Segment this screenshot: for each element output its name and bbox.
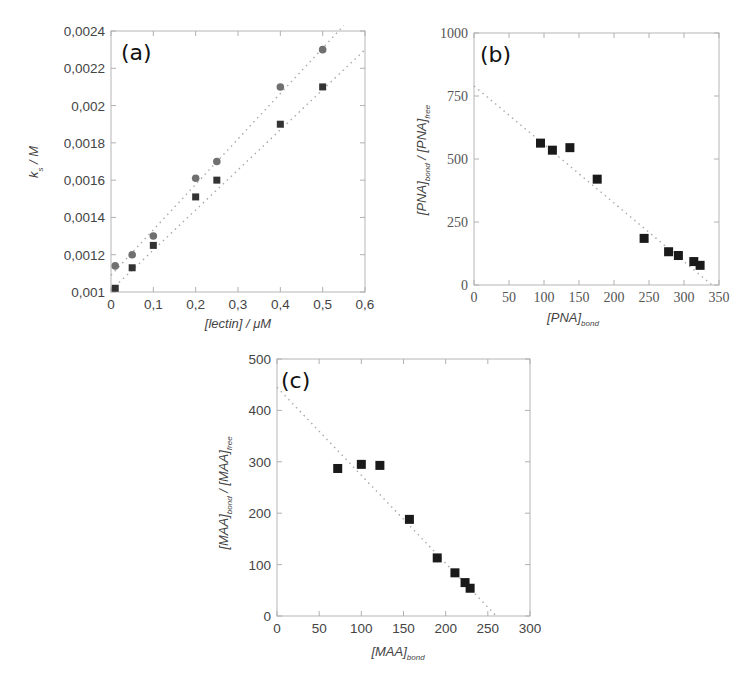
x-tick-label: 0,3 — [229, 297, 248, 312]
chart-a-plot: 00,10,20,30,40,50,6 0,0010,00120,00140,0… — [0, 0, 380, 330]
chart-b-y-axis-label: [PNA]bond / [PNA]free — [414, 104, 432, 216]
data-point-square — [674, 251, 683, 260]
chart-b-frame — [474, 33, 719, 285]
chart-c-data-points — [333, 460, 474, 593]
chart-b-data-points — [536, 139, 705, 270]
data-point-square — [405, 515, 414, 524]
chart-b-x-tick-labels: 050100150200250300350 — [471, 290, 730, 305]
chart-a-frame — [111, 31, 365, 292]
data-point-square — [129, 264, 136, 271]
panel-b-tag: (b) — [480, 42, 511, 67]
data-point-square — [150, 242, 157, 249]
data-point-circle — [213, 158, 221, 166]
chart-b-ticks — [474, 33, 719, 285]
data-point-square — [548, 146, 557, 155]
y-tick-label: 0,0022 — [64, 61, 105, 76]
chart-a-data-points — [111, 46, 326, 292]
y-tick-label: 750 — [447, 89, 468, 104]
chart-c-plot: 050100150200250300 0100200300400500 (c) … — [180, 330, 560, 681]
data-point-square — [357, 460, 366, 469]
x-tick-label: 100 — [350, 621, 373, 636]
panel-c: 050100150200250300 0100200300400500 (c) … — [180, 330, 560, 681]
x-tick-label: 0,1 — [144, 297, 163, 312]
data-point-square — [450, 568, 459, 577]
y-tick-label: 0,0016 — [64, 173, 105, 188]
chart-b-x-axis-label: [PNA]bond — [546, 310, 599, 328]
svg-text:ks / M: ks / M — [26, 146, 45, 178]
x-tick-label: 150 — [569, 290, 590, 305]
x-tick-label: 50 — [502, 290, 516, 305]
chart-c-x-tick-labels: 050100150200250300 — [273, 621, 541, 636]
data-point-square — [112, 285, 119, 292]
chart-a-y-axis-label: ks / M — [26, 146, 45, 178]
panel-c-tag: (c) — [281, 368, 310, 393]
x-tick-label: 300 — [674, 290, 695, 305]
x-tick-label: 100 — [534, 290, 555, 305]
y-tick-label: 0,0018 — [64, 136, 105, 151]
x-tick-label: 0,4 — [271, 297, 290, 312]
data-point-square — [466, 584, 475, 593]
x-tick-label: 0,5 — [313, 297, 332, 312]
y-tick-label: 300 — [248, 455, 271, 470]
x-tick-label: 250 — [477, 621, 500, 636]
svg-text:[MAA]bond / [MAA]free: [MAA]bond / [MAA]free — [216, 436, 234, 551]
data-point-circle — [150, 232, 158, 240]
data-point-square — [192, 193, 199, 200]
svg-text:[MAA]bond: [MAA]bond — [370, 644, 425, 662]
x-tick-label: 0,6 — [356, 297, 375, 312]
chart-a-x-axis-label: [lectin] / μM — [204, 316, 272, 331]
chart-b-y-tick-labels: 02505007501000 — [440, 26, 468, 293]
chart-c-x-axis-label: [MAA]bond — [370, 644, 425, 662]
x-tick-label: 300 — [519, 621, 542, 636]
fit-line — [111, 50, 365, 290]
chart-a-y-tick-labels: 0,0010,00120,00140,00160,00180,0020,0022… — [64, 24, 106, 300]
y-tick-label: 200 — [248, 506, 271, 521]
y-tick-label: 250 — [447, 215, 468, 230]
chart-c-frame — [277, 359, 530, 616]
x-tick-label: 0 — [273, 621, 281, 636]
data-point-square — [433, 553, 442, 562]
x-tick-label: 0 — [107, 297, 115, 312]
data-point-square — [333, 464, 342, 473]
data-point-square — [319, 83, 326, 90]
data-point-circle — [319, 46, 327, 54]
data-point-square — [593, 175, 602, 184]
y-tick-label: 0,0024 — [64, 24, 106, 39]
x-tick-label: 200 — [434, 621, 457, 636]
chart-c-y-tick-labels: 0100200300400500 — [248, 352, 271, 624]
y-tick-label: 0,002 — [71, 99, 105, 114]
y-tick-label: 400 — [248, 403, 271, 418]
data-point-square — [277, 121, 284, 128]
y-tick-label: 500 — [447, 152, 468, 167]
y-tick-label: 0 — [263, 609, 271, 624]
chart-c-ticks — [277, 359, 530, 616]
x-tick-label: 200 — [604, 290, 625, 305]
data-point-circle — [128, 251, 136, 259]
y-tick-label: 0 — [461, 278, 468, 293]
y-tick-label: 1000 — [440, 26, 468, 41]
x-tick-label: 250 — [639, 290, 660, 305]
x-tick-label: 50 — [312, 621, 327, 636]
data-point-square — [375, 461, 384, 470]
data-point-square — [536, 139, 545, 148]
chart-a-x-tick-labels: 00,10,20,30,40,50,6 — [107, 297, 374, 312]
x-tick-label: 0,2 — [186, 297, 205, 312]
data-point-square — [213, 177, 220, 184]
data-point-square — [664, 247, 673, 256]
x-tick-label: 0 — [471, 290, 478, 305]
data-point-circle — [277, 83, 285, 91]
y-tick-label: 100 — [248, 558, 271, 573]
panel-a-tag: (a) — [121, 40, 152, 65]
x-tick-label: 350 — [709, 290, 730, 305]
chart-a-fit-lines — [111, 25, 365, 290]
x-tick-label: 150 — [392, 621, 415, 636]
data-point-square — [640, 234, 649, 243]
y-tick-label: 0,001 — [71, 285, 105, 300]
y-tick-label: 0,0012 — [64, 248, 105, 263]
chart-b-plot: 050100150200250300350 02505007501000 (b)… — [380, 0, 749, 330]
chart-c-y-axis-label: [MAA]bond / [MAA]free — [216, 436, 234, 551]
panel-b: 050100150200250300350 02505007501000 (b)… — [380, 0, 749, 330]
y-tick-label: 0,0014 — [64, 210, 106, 225]
svg-text:[PNA]bond / [PNA]free: [PNA]bond / [PNA]free — [414, 104, 432, 216]
data-point-circle — [111, 262, 119, 270]
